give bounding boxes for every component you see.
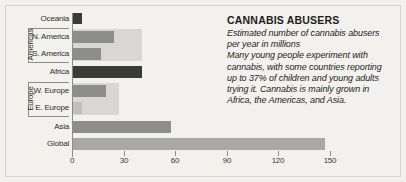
- category-label-global: Global: [47, 139, 69, 148]
- category-label-asia: Asia: [54, 122, 69, 131]
- infographic-page: Oceania N. America S. America Africa W. …: [0, 0, 406, 182]
- category-label-africa: Africa: [50, 67, 69, 76]
- bar-w-europe: [73, 85, 106, 97]
- category-label-n-america: N. America: [32, 32, 69, 41]
- group-label-americas: Americas: [26, 27, 35, 62]
- bar-oceania: [73, 13, 82, 24]
- category-label-e-europe: E. Europe: [35, 103, 69, 112]
- description-panel: CANNABIS ABUSERS Estimated number of can…: [227, 14, 393, 106]
- axis-label-90: 90: [212, 156, 242, 165]
- panel-body: Many young people experiment with cannab…: [227, 50, 393, 106]
- category-label-oceania: Oceania: [41, 14, 69, 23]
- group-bracket-americas-bottom: [28, 62, 69, 63]
- category-label-w-europe: W. Europe: [33, 86, 69, 95]
- axis-label-30: 30: [109, 156, 139, 165]
- axis-label-0: 0: [57, 156, 87, 165]
- axis-label-60: 60: [160, 156, 190, 165]
- group-label-europe: Europe: [26, 82, 35, 115]
- axis-label-120: 120: [263, 156, 293, 165]
- category-label-s-america: S. America: [32, 49, 69, 58]
- axis-label-150: 150: [315, 156, 345, 165]
- bar-n-america: [73, 31, 114, 43]
- panel-title: CANNABIS ABUSERS: [227, 14, 393, 27]
- bar-s-america: [73, 48, 101, 60]
- group-bracket-europe-bottom: [28, 116, 69, 117]
- bar-global: [73, 138, 325, 150]
- bar-e-europe: [73, 102, 82, 114]
- bar-africa: [73, 66, 142, 78]
- value-axis-line: [72, 13, 73, 157]
- bar-asia: [73, 121, 171, 133]
- panel-subtitle: Estimated number of cannabis abusers per…: [227, 28, 393, 50]
- cannabis-abusers-bar-chart: Oceania N. America S. America Africa W. …: [0, 0, 215, 182]
